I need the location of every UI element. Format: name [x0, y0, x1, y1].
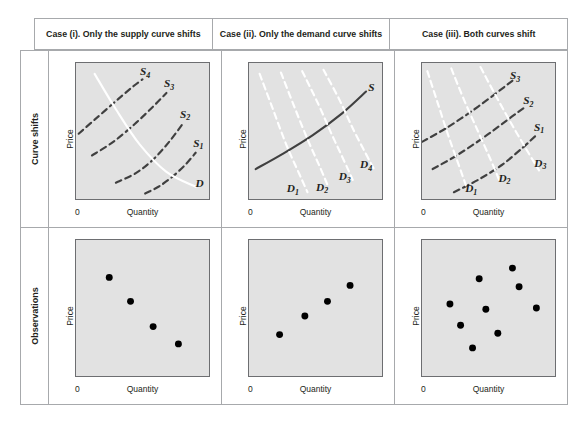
scatter-point: [482, 306, 489, 313]
curve-label: S: [368, 81, 374, 93]
plot-case3-curves: S1S2S3D3D2D1: [421, 62, 556, 200]
scatter-point: [301, 313, 308, 320]
figure-root: Case (i). Only the supply curve shifts C…: [0, 0, 586, 425]
plot-case1-observations: [75, 239, 210, 377]
x-axis-label: Quantity: [75, 207, 210, 217]
x-axis-label: Quantity: [75, 384, 210, 394]
scatter-point: [494, 330, 501, 337]
scatter-point: [324, 298, 331, 305]
cell-case2-curves: Price SD4D3D2D1 0 Quantity: [222, 51, 395, 227]
plot-case3-observations: [421, 239, 556, 377]
cell-case3-curves: Price S1S2S3D3D2D1 0 Quantity: [395, 51, 567, 227]
curve-label: S3: [164, 77, 174, 91]
cell-case1-curves: Price S1S2S3S4D 0 Quantity: [49, 51, 222, 227]
y-axis-label: Price: [238, 306, 248, 325]
plot-case1-curves: S1S2S3S4D: [75, 62, 210, 200]
row-observations: Observations Price 0 Quantity Price: [21, 228, 567, 404]
cell-case3-observations: Price 0 Quantity: [395, 228, 567, 404]
x-axis-label: Quantity: [248, 384, 383, 394]
y-axis-label: Price: [411, 306, 421, 325]
x-axis-label: Quantity: [421, 207, 556, 217]
curve-label: D2: [497, 172, 510, 186]
curve-label: D3: [533, 157, 546, 171]
scatter-point: [446, 301, 453, 308]
row-label-curve-shifts-text: Curve shifts: [30, 113, 40, 165]
column-header-case-2: Case (ii). Only the demand curve shifts: [212, 18, 390, 50]
y-axis-label: Price: [411, 129, 421, 148]
row-curve-shifts: Curve shifts Price S1S2S3S4D 0 Quantity: [21, 51, 567, 228]
scatter-point: [457, 322, 464, 329]
scatter-point: [175, 340, 182, 347]
curve-label: D1: [464, 182, 477, 196]
curve-label: S4: [140, 65, 150, 79]
curve-label: S1: [193, 137, 203, 151]
scatter-point: [509, 265, 516, 272]
row-label-observations-text: Observations: [30, 287, 40, 345]
scatter-point: [469, 344, 476, 351]
scatter-point: [276, 331, 283, 338]
plot-canvas-case1-observations: [76, 240, 209, 376]
column-header-case-1: Case (i). Only the supply curve shifts: [34, 18, 212, 50]
row-label-curve-shifts: Curve shifts: [21, 51, 49, 227]
scatter-point: [127, 298, 134, 305]
header-row: Case (i). Only the supply curve shifts C…: [34, 18, 568, 50]
scatter-point: [476, 275, 483, 282]
plot-labels-case3-curves: S1S2S3D3D2D1: [422, 63, 555, 199]
plot-labels-case1-curves: S1S2S3S4D: [76, 63, 209, 199]
column-header-case-3: Case (iii). Both curves shift: [389, 18, 568, 50]
curve-label: D2: [315, 181, 328, 195]
plot-canvas-case3-observations: [422, 240, 555, 376]
scatter-point: [106, 274, 113, 281]
plot-case2-observations: [248, 239, 383, 377]
cell-case2-observations: Price 0 Quantity: [222, 228, 395, 404]
curve-label: D3: [338, 170, 351, 184]
x-axis-label: Quantity: [248, 207, 383, 217]
curve-label: D: [195, 177, 204, 189]
curve-label: D4: [359, 158, 372, 172]
scatter-point: [347, 282, 354, 289]
y-axis-label: Price: [65, 129, 75, 148]
y-axis-label: Price: [238, 129, 248, 148]
cell-case1-observations: Price 0 Quantity: [49, 228, 222, 404]
curve-label: S2: [180, 108, 190, 122]
row-label-observations: Observations: [21, 228, 49, 404]
curve-label: S2: [523, 94, 533, 108]
curve-label: D1: [286, 182, 299, 196]
scatter-point: [516, 283, 523, 290]
curve-label: S1: [534, 121, 544, 135]
x-axis-label: Quantity: [421, 384, 556, 394]
scatter-point: [533, 305, 540, 312]
curve-label: S3: [510, 69, 520, 83]
plot-canvas-case2-observations: [249, 240, 382, 376]
scatter-point: [150, 323, 157, 330]
plot-case2-curves: SD4D3D2D1: [248, 62, 383, 200]
plot-labels-case2-curves: SD4D3D2D1: [249, 63, 382, 199]
figure-grid: Curve shifts Price S1S2S3S4D 0 Quantity: [20, 50, 568, 405]
y-axis-label: Price: [65, 306, 75, 325]
